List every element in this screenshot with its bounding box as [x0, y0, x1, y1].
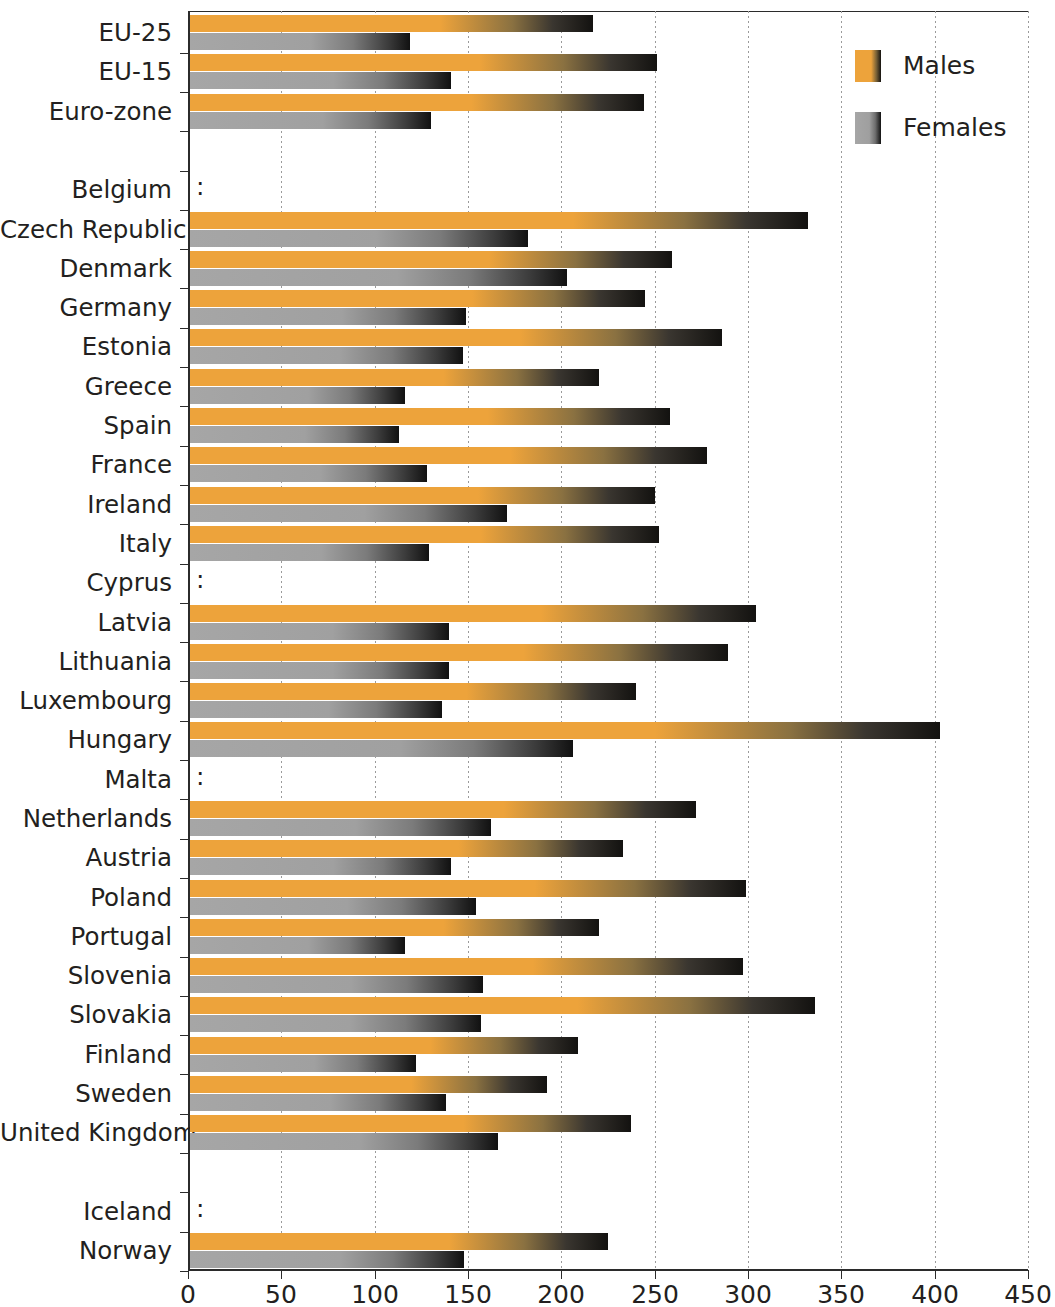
- bar-females-netherlands: [190, 819, 491, 836]
- y-tick-22: [180, 917, 189, 918]
- y-label-latvia: Latvia: [0, 611, 172, 636]
- gridline-200: [561, 11, 562, 1270]
- y-label-euro-zone: Euro-zone: [0, 100, 172, 125]
- y-tick-14: [180, 603, 189, 604]
- y-tick-13: [180, 564, 189, 565]
- y-tick-18: [180, 760, 189, 761]
- gridline-350: [841, 11, 842, 1270]
- y-tick-27: [180, 1114, 189, 1115]
- legend-label-females: Females: [903, 114, 1006, 142]
- y-label-eu-25: EU-25: [0, 21, 172, 46]
- bar-females-finland: [190, 1055, 416, 1072]
- y-label-czech-republic: Czech Republic: [0, 218, 172, 243]
- y-label-poland: Poland: [0, 886, 172, 911]
- y-tick-10: [180, 446, 189, 447]
- bar-females-hungary: [190, 740, 573, 757]
- no-data-marker-cyprus: :: [196, 570, 204, 590]
- bar-females-poland: [190, 898, 476, 915]
- y-label-united-kingdom: United Kingdom: [0, 1121, 172, 1146]
- bar-males-italy: [190, 526, 659, 543]
- bar-males-poland: [190, 880, 746, 897]
- bar-males-eu-25: [190, 15, 593, 32]
- y-label-iceland: Iceland: [0, 1200, 172, 1225]
- y-tick-31: [180, 1271, 189, 1272]
- no-data-marker-belgium: :: [196, 177, 204, 197]
- bar-females-slovenia: [190, 976, 483, 993]
- x-tick-label-300: 300: [708, 1281, 788, 1307]
- bar-females-united-kingdom: [190, 1133, 498, 1150]
- x-tick-label-0: 0: [148, 1281, 228, 1307]
- bar-females-eu-15: [190, 72, 451, 89]
- y-tick-29: [180, 1192, 189, 1193]
- bar-males-spain: [190, 408, 670, 425]
- gridline-450: [1028, 11, 1029, 1270]
- x-tick-250: [655, 1270, 656, 1279]
- legend-item-males: Males: [855, 50, 975, 82]
- bar-females-eu-25: [190, 33, 410, 50]
- y-label-norway: Norway: [0, 1239, 172, 1264]
- y-tick-3: [180, 171, 189, 172]
- x-tick-350: [841, 1270, 842, 1279]
- y-label-france: France: [0, 453, 172, 478]
- bar-males-slovakia: [190, 997, 815, 1014]
- bar-females-greece: [190, 387, 405, 404]
- y-label-malta: Malta: [0, 768, 172, 793]
- y-tick-1: [180, 92, 189, 93]
- bar-males-hungary: [190, 722, 940, 739]
- x-tick-300: [748, 1270, 749, 1279]
- y-label-lithuania: Lithuania: [0, 650, 172, 675]
- y-tick-6: [180, 288, 189, 289]
- bar-females-spain: [190, 426, 399, 443]
- y-label-austria: Austria: [0, 846, 172, 871]
- y-tick-20: [180, 839, 189, 840]
- bar-females-italy: [190, 544, 429, 561]
- x-tick-label-200: 200: [521, 1281, 601, 1307]
- bar-males-latvia: [190, 605, 756, 622]
- bar-males-estonia: [190, 329, 722, 346]
- y-label-luxembourg: Luxembourg: [0, 689, 172, 714]
- y-tick-11: [180, 485, 189, 486]
- y-tick-30: [180, 1232, 189, 1233]
- x-tick-150: [468, 1270, 469, 1279]
- y-label-slovakia: Slovakia: [0, 1003, 172, 1028]
- bar-females-euro-zone: [190, 112, 431, 129]
- legend-item-females: Females: [855, 112, 1006, 144]
- y-tick-17: [180, 721, 189, 722]
- bar-males-finland: [190, 1037, 578, 1054]
- bar-females-denmark: [190, 269, 567, 286]
- bar-females-france: [190, 465, 427, 482]
- y-label-denmark: Denmark: [0, 257, 172, 282]
- y-tick-5: [180, 249, 189, 250]
- bar-males-norway: [190, 1233, 608, 1250]
- y-tick-15: [180, 642, 189, 643]
- y-label-spain: Spain: [0, 414, 172, 439]
- y-tick-21: [180, 878, 189, 879]
- y-tick-19: [180, 799, 189, 800]
- bar-females-luxembourg: [190, 701, 442, 718]
- bar-males-united-kingdom: [190, 1115, 631, 1132]
- x-tick-label-250: 250: [615, 1281, 695, 1307]
- x-tick-100: [375, 1270, 376, 1279]
- y-label-netherlands: Netherlands: [0, 807, 172, 832]
- y-tick-25: [180, 1035, 189, 1036]
- y-tick-26: [180, 1074, 189, 1075]
- gridline-400: [935, 11, 936, 1270]
- bar-males-eu-15: [190, 54, 657, 71]
- y-tick-24: [180, 996, 189, 997]
- y-tick-7: [180, 328, 189, 329]
- y-label-germany: Germany: [0, 296, 172, 321]
- bar-males-lithuania: [190, 644, 728, 661]
- legend-swatch-male-icon: [855, 50, 881, 82]
- y-label-portugal: Portugal: [0, 925, 172, 950]
- bar-males-greece: [190, 369, 599, 386]
- bar-males-netherlands: [190, 801, 696, 818]
- y-tick-23: [180, 957, 189, 958]
- y-label-cyprus: Cyprus: [0, 571, 172, 596]
- bar-females-portugal: [190, 937, 405, 954]
- y-label-greece: Greece: [0, 375, 172, 400]
- y-tick-28: [180, 1153, 189, 1154]
- y-label-italy: Italy: [0, 532, 172, 557]
- x-tick-label-50: 50: [241, 1281, 321, 1307]
- x-tick-450: [1028, 1270, 1029, 1279]
